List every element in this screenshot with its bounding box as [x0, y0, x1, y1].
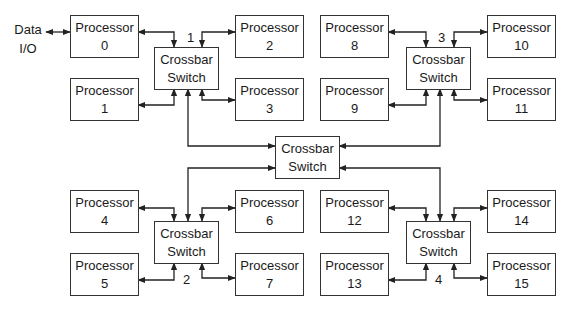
crossbar-number-label: 3 [438, 30, 445, 46]
processor-label: Processor [240, 194, 299, 212]
processor-13: Processor13 [320, 253, 389, 296]
processor-number: 11 [515, 100, 529, 118]
processor-label: Processor [325, 19, 384, 37]
processor-label: Processor [492, 257, 551, 275]
crossbar-number-label: 1 [187, 30, 194, 46]
crossbar-label: Switch [167, 69, 205, 87]
processor-label: Processor [492, 194, 551, 212]
processor-5: Processor5 [70, 253, 139, 296]
processor-number: 12 [347, 212, 361, 230]
data-io-line1: Data [14, 22, 41, 37]
processor-4: Processor4 [70, 190, 139, 233]
crossbar-label: Switch [288, 158, 326, 176]
processor-0: Processor0 [70, 15, 139, 58]
processor-number: 1 [101, 100, 108, 118]
processor-9: Processor9 [320, 78, 389, 121]
data-io-line2: I/O [19, 41, 36, 56]
processor-number: 4 [101, 212, 108, 230]
processor-11: Processor11 [487, 78, 556, 121]
crossbar-label: Switch [419, 243, 457, 261]
processor-label: Processor [75, 82, 134, 100]
processor-number: 10 [514, 37, 528, 55]
crossbar-switch-1: CrossbarSwitch [154, 47, 219, 90]
processor-3: Processor3 [235, 78, 304, 121]
crossbar-switch-central: CrossbarSwitch [275, 136, 340, 179]
processor-number: 3 [266, 100, 273, 118]
processor-label: Processor [75, 257, 134, 275]
processor-7: Processor7 [235, 253, 304, 296]
processor-6: Processor6 [235, 190, 304, 233]
processor-number: 13 [347, 275, 361, 293]
processor-14: Processor14 [487, 190, 556, 233]
crossbar-label: Crossbar [160, 51, 213, 69]
data-io-label: Data I/O [10, 20, 46, 58]
processor-2: Processor2 [235, 15, 304, 58]
processor-number: 8 [351, 37, 358, 55]
crossbar-label: Crossbar [412, 225, 465, 243]
processor-label: Processor [75, 194, 134, 212]
processor-12: Processor12 [320, 190, 389, 233]
processor-1: Processor1 [70, 78, 139, 121]
processor-label: Processor [240, 82, 299, 100]
processor-label: Processor [325, 82, 384, 100]
crossbar-label: Switch [167, 243, 205, 261]
processor-label: Processor [492, 19, 551, 37]
processor-label: Processor [325, 194, 384, 212]
processor-label: Processor [325, 257, 384, 275]
processor-number: 7 [266, 275, 273, 293]
processor-10: Processor10 [487, 15, 556, 58]
crossbar-number-label: 4 [435, 272, 442, 288]
crossbar-number-label: 2 [183, 272, 190, 288]
processor-number: 6 [266, 212, 273, 230]
processor-label: Processor [492, 82, 551, 100]
processor-number: 14 [514, 212, 528, 230]
crossbar-switch-3: CrossbarSwitch [406, 47, 471, 90]
crossbar-label: Crossbar [160, 225, 213, 243]
crossbar-label: Crossbar [412, 51, 465, 69]
crossbar-switch-4: CrossbarSwitch [406, 221, 471, 264]
processor-number: 5 [101, 275, 108, 293]
crossbar-label: Crossbar [281, 140, 334, 158]
crossbar-switch-2: CrossbarSwitch [154, 221, 219, 264]
processor-label: Processor [75, 19, 134, 37]
processor-label: Processor [240, 257, 299, 275]
processor-number: 0 [101, 37, 108, 55]
crossbar-label: Switch [419, 69, 457, 87]
processor-8: Processor8 [320, 15, 389, 58]
processor-number: 2 [266, 37, 273, 55]
processor-label: Processor [240, 19, 299, 37]
processor-15: Processor15 [487, 253, 556, 296]
processor-number: 15 [514, 275, 528, 293]
processor-number: 9 [351, 100, 358, 118]
